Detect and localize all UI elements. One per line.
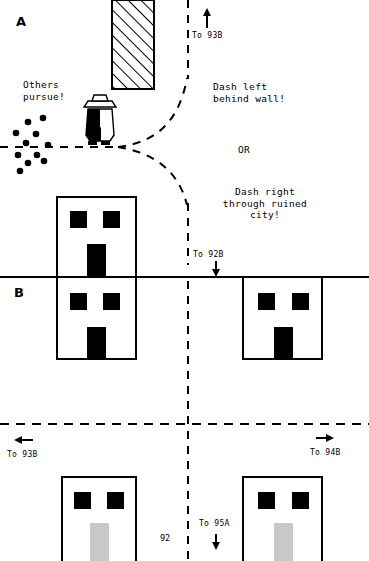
arrow-right-94b [316,434,334,442]
window [103,211,120,228]
door [87,244,106,277]
nav-link-to-92b[interactable]: To 92B [193,250,224,260]
window [70,211,87,228]
window [292,492,309,509]
arrow-down-92b [212,261,220,277]
window [292,293,309,310]
pursuer-dots [13,115,52,175]
nav-link-to-94b[interactable]: To 94B [310,448,341,458]
building-center-lower [57,277,136,359]
window [258,293,275,310]
comic-map-page: A B Others pursue! Dash left behind wall… [0,0,369,561]
panel-label-a: A [16,14,26,30]
window [258,492,275,509]
building-bottom-left [62,477,136,561]
building-center-upper [57,197,136,277]
door [274,327,293,359]
door [87,327,106,359]
nav-link-to-95a[interactable]: To 95A [199,519,230,529]
window [74,492,91,509]
nav-link-to-93b-top[interactable]: To 93B [192,31,223,41]
narration-or: OR [238,144,250,156]
arrow-up-93b [203,8,211,28]
door [274,523,293,561]
building-right-mid [243,277,322,359]
window [107,492,124,509]
window [103,293,120,310]
door [90,523,109,561]
nav-link-to-93b-bottom[interactable]: To 93B [7,450,38,460]
hatched-wall [112,0,154,89]
window [70,293,87,310]
panel-label-b: B [14,285,24,301]
hero-figure-with-hat [84,95,116,145]
arrow-down-95a [212,534,220,550]
page-number: 92 [160,533,170,543]
narration-dash-right: Dash right through ruined city! [205,186,325,221]
arrow-left-93b [14,436,33,444]
building-bottom-right [243,477,322,561]
narration-dash-left: Dash left behind wall! [213,81,285,104]
narration-others-pursue: Others pursue! [23,79,65,102]
